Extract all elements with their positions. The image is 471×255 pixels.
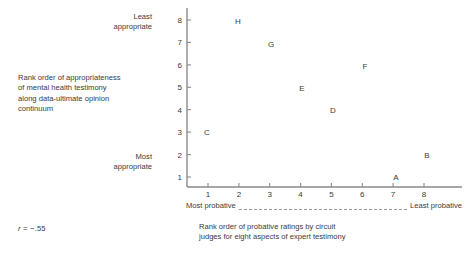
x-axis-high-end-label: Least probative [410,201,462,210]
data-point-d[interactable]: D [327,106,339,115]
data-point-c[interactable]: C [201,128,213,137]
plot-axes-svg [0,0,471,255]
x-tick-label-3: 3 [263,190,277,199]
x-tick-label-6: 6 [355,190,369,199]
data-point-b[interactable]: B [421,151,433,160]
x-tick-label-4: 4 [294,190,308,199]
data-point-e[interactable]: E [296,84,308,93]
x-axis-caption: Rank order of probative ratings by circu… [199,222,449,243]
data-point-a[interactable]: A [390,173,402,182]
y-tick-label-5: 5 [170,83,182,92]
y-tick-label-7: 7 [170,38,182,47]
x-tick-label-8: 8 [417,190,431,199]
scatter-plot: 1 2 3 4 5 6 7 8 1 2 3 4 5 6 7 8 A B C D … [0,0,471,255]
x-axis-direction-rule [239,208,407,210]
y-tick-label-3: 3 [170,128,182,137]
data-point-g[interactable]: G [265,40,277,49]
data-point-f[interactable]: F [359,62,371,71]
y-tick-label-1: 1 [170,173,182,182]
data-point-h[interactable]: H [232,17,244,26]
x-axis-descriptor: Most probative Least probative [186,200,462,211]
x-tick-label-1: 1 [201,190,215,199]
x-tick-label-5: 5 [324,190,338,199]
y-tick-label-2: 2 [170,151,182,160]
x-tick-label-2: 2 [232,190,246,199]
y-tick-label-8: 8 [170,16,182,25]
y-tick-label-4: 4 [170,106,182,115]
y-tick-label-6: 6 [170,61,182,70]
x-tick-label-7: 7 [386,190,400,199]
x-axis-low-end-label: Most probative [186,201,236,210]
